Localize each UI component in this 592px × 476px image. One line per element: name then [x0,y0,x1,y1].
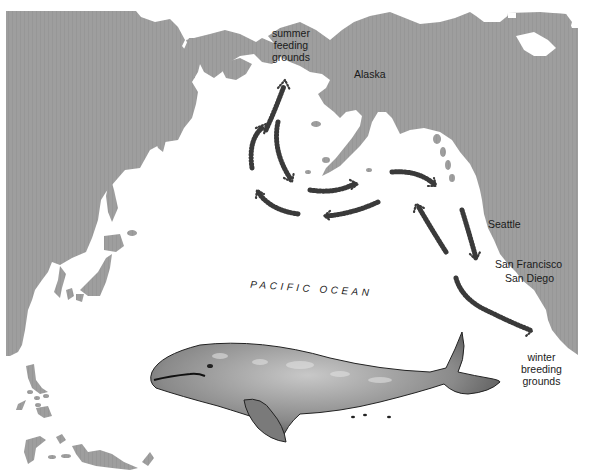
label-line: summer [272,27,310,39]
label-alaska: Alaska [354,68,386,80]
label-san-francisco: San Francisco [495,258,562,270]
whale-eye [207,364,213,368]
route-gulf-east [310,180,358,191]
gray-whale-illustration [151,332,500,442]
route-baja-south [456,278,532,336]
route-coast-south [462,210,480,260]
land-asia [6,11,201,356]
land-north-america [268,12,578,355]
migration-map [0,0,592,476]
whale-body [151,332,500,440]
land-coastal-islands [433,134,455,182]
label-line: grounds [272,51,310,63]
label-summer-feeding-grounds: summer feeding grounds [272,27,310,63]
label-line: grounds [521,375,562,387]
label-line: breeding [521,363,562,375]
route-aleutian-south [277,122,295,182]
route-gulf-east-2 [392,172,436,186]
route-west-loop [256,190,298,214]
label-seattle: Seattle [488,218,521,230]
label-line: feeding [272,39,310,51]
land-southeast-asia-islands [16,364,154,470]
label-winter-breeding-grounds: winter breeding grounds [521,351,562,387]
label-san-diego: San Diego [505,272,554,284]
label-line: winter [521,351,562,363]
route-mid-west [324,202,378,220]
route-coast-north [414,204,446,252]
